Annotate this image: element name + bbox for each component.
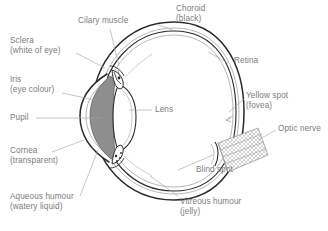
label-iris-line1: Iris — [10, 75, 21, 84]
eye-anatomy-diagram: Cilary muscle Choroid (black) Sclera (wh… — [0, 0, 328, 231]
label-ciliary-muscle-line1: Cilary muscle — [78, 16, 128, 25]
label-cornea-line1: Cornea — [10, 146, 37, 155]
label-pupil-line1: Pupil — [10, 113, 29, 122]
label-yellow-spot-line1: Yellow spot — [246, 91, 288, 100]
label-aqueous-humour: Aqueous humour (watery liquid) — [10, 192, 74, 212]
label-lens: Lens — [155, 105, 173, 115]
label-iris-line2: (eye colour) — [10, 85, 54, 95]
label-sclera-line2: (white of eye) — [10, 46, 61, 56]
label-sclera: Sclera (white of eye) — [10, 36, 61, 56]
label-vitreous-humour-line1: Vitreous humour — [180, 197, 241, 206]
label-aqueous-humour-line1: Aqueous humour — [10, 192, 74, 201]
label-aqueous-humour-line2: (watery liquid) — [10, 202, 74, 212]
label-yellow-spot: Yellow spot (fovea) — [246, 91, 288, 111]
label-retina-line1: Retina — [234, 56, 258, 65]
label-vitreous-humour: Vitreous humour (jelly) — [180, 197, 241, 217]
label-yellow-spot-line2: (fovea) — [246, 101, 288, 111]
label-retina: Retina — [234, 56, 258, 66]
label-ciliary-muscle: Cilary muscle — [78, 16, 128, 26]
leader-choroid — [156, 24, 173, 30]
label-optic-nerve: Optic nerve — [278, 124, 321, 134]
leader-sclera — [76, 53, 105, 68]
label-choroid-line1: Choroid — [176, 4, 205, 13]
label-pupil: Pupil — [10, 113, 29, 123]
leader-aqueous-humour — [80, 150, 98, 196]
label-choroid-line2: (black) — [176, 14, 205, 24]
label-optic-nerve-line1: Optic nerve — [278, 124, 321, 133]
label-cornea: Cornea (transparent) — [10, 146, 58, 166]
label-blind-spot-line1: Blind spot — [196, 165, 233, 174]
label-vitreous-humour-line2: (jelly) — [180, 207, 241, 217]
label-lens-line1: Lens — [155, 105, 173, 114]
label-sclera-line1: Sclera — [10, 36, 34, 45]
label-iris: Iris (eye colour) — [10, 75, 54, 95]
label-blind-spot: Blind spot — [196, 165, 233, 175]
label-cornea-line2: (transparent) — [10, 156, 58, 166]
label-choroid: Choroid (black) — [176, 4, 205, 24]
